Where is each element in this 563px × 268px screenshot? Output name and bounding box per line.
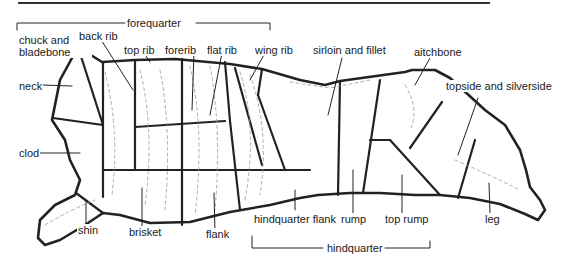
label-leg: leg (484, 213, 501, 225)
label-aitchbone: aitchbone (413, 46, 463, 58)
label-top-rump: top rump (384, 213, 429, 225)
label-brisket: brisket (128, 226, 162, 238)
label-forerib: forerib (164, 44, 197, 56)
label-wing-rib: wing rib (254, 44, 294, 56)
label-neck: neck (18, 80, 43, 92)
label-back-rib: back rib (78, 30, 119, 42)
label-clod: clod (18, 147, 40, 159)
label-hindquarter: hindquarter (326, 242, 384, 254)
label-top-rib: top rib (123, 44, 156, 56)
label-sirloin-and-fillet: sirloin and fillet (312, 44, 387, 56)
label-flat-rib: flat rib (206, 44, 238, 56)
label-hindquarter-flank: hindquarter flank (253, 213, 337, 225)
label-flank: flank (205, 228, 230, 240)
label-shin: shin (77, 224, 99, 236)
label-rump: rump (340, 213, 367, 225)
label-forequarter: forequarter (126, 17, 182, 29)
label-topside-and-silverside: topside and silverside (445, 80, 553, 92)
